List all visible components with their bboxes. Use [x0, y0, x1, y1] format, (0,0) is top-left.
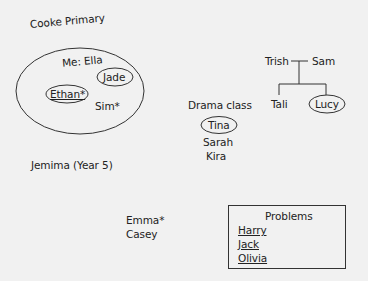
parent-trish: Trish [265, 55, 289, 67]
name-emma: Emma* [126, 214, 164, 226]
problem-name-jack: Jack [238, 238, 259, 250]
name-casey: Casey [126, 228, 157, 240]
drama-class-label: Drama class [188, 99, 252, 111]
problems-title: Problems [265, 210, 313, 222]
problem-name-harry: Harry [238, 224, 267, 236]
problem-name-olivia: Olivia [238, 252, 267, 264]
sociogram-diagram: Cooke Primary Me: Ella Jade Ethan* Sim* … [0, 0, 368, 281]
drama-kira: Kira [206, 150, 226, 162]
parent-sam: Sam [312, 55, 335, 67]
problems-box: Problems Harry Jack Olivia [228, 205, 346, 269]
drama-tina: Tina [208, 119, 230, 131]
friend-sim: Sim* [95, 100, 120, 112]
friend-ethan: Ethan* [50, 88, 85, 100]
child-lucy: Lucy [315, 98, 339, 110]
child-tali: Tali [271, 98, 288, 110]
friend-jade: Jade [103, 71, 125, 83]
drama-sarah: Sarah [203, 136, 233, 148]
other-school-name: Jemima (Year 5) [31, 159, 113, 171]
